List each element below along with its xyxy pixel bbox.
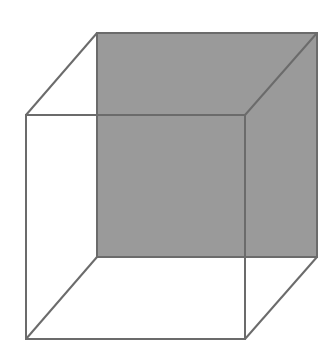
edge-bottom-left xyxy=(26,257,97,339)
edge-top-left xyxy=(26,33,97,115)
cube-diagram xyxy=(0,0,336,359)
back-face-shaded xyxy=(97,33,317,257)
edge-bottom-right xyxy=(245,257,317,339)
